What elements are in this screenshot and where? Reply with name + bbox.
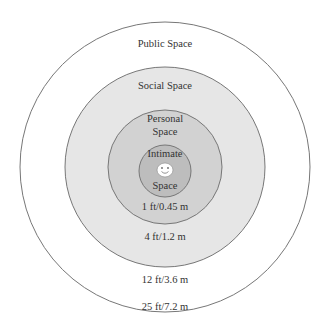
- personal-space-label-line2: Space: [152, 126, 177, 138]
- public-space-label: Public Space: [138, 38, 193, 50]
- intimate-distance-label: 1 ft/0.45 m: [142, 201, 188, 213]
- personal-space-label-line1: Personal: [147, 113, 183, 125]
- personal-distance-label: 4 ft/1.2 m: [144, 231, 185, 243]
- social-distance-label: 12 ft/3.6 m: [142, 274, 188, 286]
- smiley-face-icon: [157, 163, 173, 177]
- public-distance-label: 25 ft/7.2 m: [142, 301, 188, 313]
- intimate-space-label-line1: Intimate: [148, 148, 183, 160]
- social-space-label: Social Space: [138, 80, 192, 92]
- intimate-space-label-line2: Space: [152, 180, 177, 192]
